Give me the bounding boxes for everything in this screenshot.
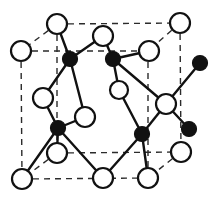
atom-open-o9 (156, 94, 176, 114)
atom-open-o3 (11, 41, 31, 61)
cell-edge-bottom-back-edge (57, 152, 181, 153)
atom-open-o8 (75, 107, 95, 127)
atom-open-o7 (110, 81, 128, 99)
atom-open-o14 (138, 168, 158, 188)
atom-open-o1 (47, 14, 67, 34)
atom-open-o6 (33, 88, 53, 108)
atom-filled-f4 (51, 121, 66, 136)
atom-open-o2 (170, 13, 190, 33)
atom-open-o13 (93, 168, 113, 188)
cell-edge-front-left-vertical-edge (21, 51, 22, 179)
atom-open-o11 (171, 142, 191, 162)
atom-open-o10 (47, 143, 67, 163)
cell-edge-bottom-front-edge (22, 178, 148, 179)
cell-edge-top-back-edge (57, 23, 180, 24)
atom-open-o12 (12, 169, 32, 189)
atom-filled-f5 (135, 127, 150, 142)
atoms (11, 13, 208, 189)
atom-filled-f3 (193, 56, 208, 71)
atom-open-o4 (93, 26, 113, 46)
crystal-structure-figure (0, 0, 212, 201)
atom-filled-f2 (106, 52, 121, 67)
atom-filled-f1 (63, 52, 78, 67)
atom-open-o5 (139, 41, 159, 61)
atom-filled-f6 (182, 122, 197, 137)
lattice-diagram (0, 0, 212, 201)
